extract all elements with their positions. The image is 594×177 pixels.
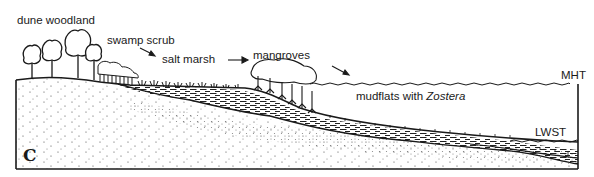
label-mudflats: mudflats with Zostera (356, 91, 465, 103)
arrow-mangroves-to-mudflats (332, 66, 345, 73)
label-dune-woodland: dune woodland (17, 15, 95, 27)
panel-label: C (23, 147, 37, 164)
coastal-zonation-cross-section (0, 0, 594, 177)
swamp-scrub-vegetation (98, 61, 138, 85)
label-mht: MHT (561, 70, 586, 82)
label-mudflats-text: mudflats with (356, 90, 426, 102)
label-lwst: LWST (535, 127, 566, 139)
mht-water-line (310, 83, 570, 85)
label-salt-marsh: salt marsh (162, 54, 215, 66)
label-zostera: Zostera (426, 90, 465, 102)
dune-woodland-trees (23, 30, 101, 80)
label-mangroves: mangroves (253, 50, 310, 62)
label-swamp-scrub: swamp scrub (107, 35, 175, 47)
